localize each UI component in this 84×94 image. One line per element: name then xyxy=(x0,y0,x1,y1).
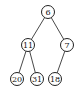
tree-node-left-child: 11 xyxy=(22,39,35,52)
tree-node-leaf: 18 xyxy=(49,73,62,86)
tree-edge xyxy=(30,51,36,72)
tree-edge xyxy=(19,51,26,73)
tree-edge xyxy=(51,18,64,40)
tree-edge xyxy=(57,51,65,73)
node-label: 20 xyxy=(12,75,22,84)
tree-node-root: 6 xyxy=(42,6,55,19)
binary-tree-diagram: 6 11 7 20 31 18 xyxy=(0,0,84,94)
tree-node-leaf: 31 xyxy=(31,73,44,86)
node-label: 31 xyxy=(32,75,42,84)
node-label: 7 xyxy=(64,41,69,50)
node-label: 18 xyxy=(50,75,60,84)
tree-nodes: 6 11 7 20 31 18 xyxy=(11,6,74,86)
node-label: 6 xyxy=(45,8,50,17)
tree-edge xyxy=(31,18,44,40)
tree-node-right-child: 7 xyxy=(61,39,74,52)
tree-node-leaf: 20 xyxy=(11,73,24,86)
node-label: 11 xyxy=(23,41,33,50)
